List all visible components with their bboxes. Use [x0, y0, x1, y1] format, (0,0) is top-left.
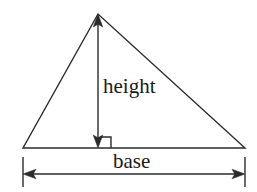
height-label: height [103, 76, 156, 97]
triangle-figure: height base [0, 0, 257, 192]
base-label: base [113, 151, 150, 172]
